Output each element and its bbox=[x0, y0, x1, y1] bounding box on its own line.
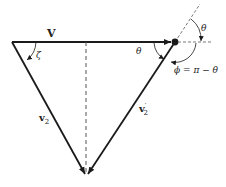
velocity-triangle-diagram bbox=[0, 0, 226, 187]
collision-point bbox=[172, 39, 179, 46]
label-phi-equation: ϕ = π − θ bbox=[174, 66, 218, 75]
dashed-extension bbox=[175, 4, 200, 42]
theta-arc-right bbox=[191, 19, 201, 41]
vector-v2 bbox=[12, 42, 85, 174]
phi-arc bbox=[171, 43, 196, 62]
label-V: V bbox=[47, 28, 56, 39]
label-v2: v2 bbox=[39, 113, 49, 126]
label-zeta: ζ bbox=[36, 51, 41, 60]
label-v2-prime: v′2 bbox=[139, 103, 148, 117]
vector-v2-prime bbox=[88, 42, 175, 174]
theta-arc-left bbox=[154, 43, 164, 59]
label-theta-right: θ bbox=[201, 24, 206, 33]
zeta-arc bbox=[27, 42, 36, 60]
label-theta-left: θ bbox=[136, 47, 141, 56]
